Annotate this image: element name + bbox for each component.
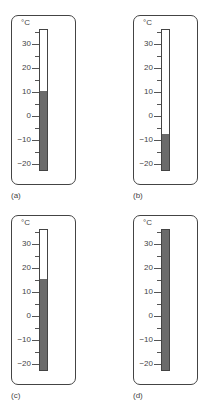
- major-tick: [154, 316, 161, 317]
- tick-label: 10: [131, 88, 153, 96]
- minor-tick: [35, 32, 39, 33]
- major-tick: [32, 364, 39, 365]
- minor-tick: [35, 256, 39, 257]
- mercury-fill: [40, 279, 47, 370]
- unit-label: °C: [21, 18, 30, 27]
- major-tick: [154, 92, 161, 93]
- major-tick: [154, 292, 161, 293]
- thermometer-panel-a: °C3020100−10−20(a): [0, 0, 105, 204]
- tick-label: −20: [131, 160, 153, 168]
- minor-tick: [35, 152, 39, 153]
- major-tick: [32, 140, 39, 141]
- tick-label: 0: [131, 312, 153, 320]
- panel-caption: (d): [133, 391, 143, 400]
- tick-label: 0: [131, 112, 153, 120]
- thermometer-panel-d: °C3020100−10−20(d): [122, 200, 210, 404]
- major-tick: [32, 340, 39, 341]
- unit-label: °C: [143, 218, 152, 227]
- minor-tick: [157, 328, 161, 329]
- mercury-fill: [162, 134, 169, 170]
- tick-label: 10: [9, 88, 31, 96]
- mercury-fill: [40, 91, 47, 170]
- major-tick: [154, 164, 161, 165]
- tick-label: 20: [131, 264, 153, 272]
- minor-tick: [157, 32, 161, 33]
- minor-tick: [157, 232, 161, 233]
- major-tick: [32, 244, 39, 245]
- tick-label: −10: [9, 336, 31, 344]
- major-tick: [32, 292, 39, 293]
- tick-label: 20: [131, 64, 153, 72]
- major-tick: [154, 44, 161, 45]
- minor-tick: [35, 352, 39, 353]
- major-tick: [154, 268, 161, 269]
- major-tick: [32, 164, 39, 165]
- tick-label: 0: [9, 312, 31, 320]
- tick-label: 10: [9, 288, 31, 296]
- minor-tick: [35, 104, 39, 105]
- thermometer-tube: [161, 229, 170, 371]
- minor-tick: [35, 80, 39, 81]
- minor-tick: [157, 152, 161, 153]
- major-tick: [32, 68, 39, 69]
- minor-tick: [157, 256, 161, 257]
- minor-tick: [35, 280, 39, 281]
- major-tick: [32, 116, 39, 117]
- tick-label: 30: [9, 40, 31, 48]
- mercury-fill: [162, 230, 169, 370]
- panel-caption: (b): [133, 191, 143, 200]
- tick-label: −20: [9, 160, 31, 168]
- thermometer-tube: [161, 29, 170, 171]
- major-tick: [154, 116, 161, 117]
- panel-caption: (c): [11, 391, 20, 400]
- minor-tick: [35, 328, 39, 329]
- major-tick: [154, 140, 161, 141]
- minor-tick: [35, 128, 39, 129]
- major-tick: [32, 268, 39, 269]
- tick-label: −20: [131, 360, 153, 368]
- panel-caption: (a): [11, 191, 21, 200]
- tick-label: 10: [131, 288, 153, 296]
- tick-label: −10: [9, 136, 31, 144]
- thermometer-tube: [39, 29, 48, 171]
- tick-label: 0: [9, 112, 31, 120]
- minor-tick: [35, 304, 39, 305]
- minor-tick: [35, 56, 39, 57]
- unit-label: °C: [21, 218, 30, 227]
- major-tick: [32, 44, 39, 45]
- tick-label: −20: [9, 360, 31, 368]
- major-tick: [154, 244, 161, 245]
- minor-tick: [35, 232, 39, 233]
- minor-tick: [157, 280, 161, 281]
- major-tick: [32, 316, 39, 317]
- major-tick: [154, 68, 161, 69]
- tick-label: −10: [131, 136, 153, 144]
- unit-label: °C: [143, 18, 152, 27]
- minor-tick: [157, 104, 161, 105]
- tick-label: 20: [9, 264, 31, 272]
- thermometer-tube: [39, 229, 48, 371]
- tick-label: −10: [131, 336, 153, 344]
- minor-tick: [157, 304, 161, 305]
- minor-tick: [157, 352, 161, 353]
- major-tick: [32, 92, 39, 93]
- tick-label: 20: [9, 64, 31, 72]
- thermometer-panel-c: °C3020100−10−20(c): [0, 200, 105, 404]
- major-tick: [154, 340, 161, 341]
- major-tick: [154, 364, 161, 365]
- thermometer-panel-b: °C3020100−10−20(b): [122, 0, 210, 204]
- tick-label: 30: [131, 40, 153, 48]
- minor-tick: [157, 80, 161, 81]
- minor-tick: [157, 56, 161, 57]
- tick-label: 30: [9, 240, 31, 248]
- minor-tick: [157, 128, 161, 129]
- tick-label: 30: [131, 240, 153, 248]
